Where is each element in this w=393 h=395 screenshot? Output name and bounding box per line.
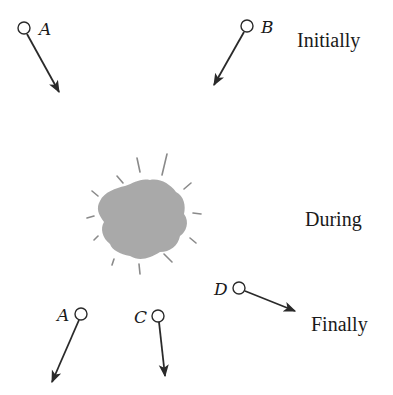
stage-label-finally: Finally [311,313,368,336]
particle-circle-icon [152,310,164,322]
particle-label: A [55,305,69,325]
velocity-arrow-icon [27,34,59,92]
velocity-arrow-icon [52,320,79,382]
collision-diagram: A B Initially During D Finally [0,0,393,395]
particle-label: C [134,307,147,327]
velocity-arrow-icon [245,291,295,311]
velocity-arrow-icon [214,32,244,85]
particle-label: D [213,279,228,299]
stage-label-initially: Initially [297,29,360,52]
final-particle-c: C [134,307,165,376]
stage-label-during: During [305,208,362,231]
particle-circle-icon [241,20,253,32]
velocity-arrow-icon [159,322,165,376]
particle-circle-icon [18,22,30,34]
final-particle-d: D [213,279,295,311]
particle-label: B [260,17,274,37]
final-particle-a: A [52,305,87,382]
initial-particle-a: A [18,19,59,92]
particle-label: A [37,19,51,39]
initial-particle-b: B [214,17,274,85]
collision-burst [87,154,201,274]
particle-circle-icon [75,308,87,320]
particle-circle-icon [233,282,245,294]
collision-blob-icon [98,180,187,259]
